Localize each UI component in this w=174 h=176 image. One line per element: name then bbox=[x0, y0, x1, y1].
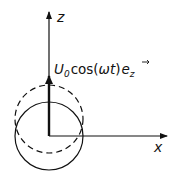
vector-arrow-icon bbox=[142, 60, 149, 64]
close-paren: ) bbox=[115, 61, 120, 77]
velocity-label: U0cos(ωt)ez bbox=[54, 61, 135, 79]
velocity-amplitude-subscript: 0 bbox=[64, 69, 70, 79]
unit-vector-subscript: z bbox=[129, 69, 135, 79]
omega-t: ωt bbox=[99, 61, 116, 77]
x-axis-label: x bbox=[153, 139, 163, 155]
cos-function: cos( bbox=[71, 61, 99, 77]
unit-vector-e: e bbox=[122, 61, 130, 77]
velocity-amplitude: U bbox=[54, 61, 64, 77]
z-axis-label: z bbox=[56, 9, 65, 25]
oscillating-sphere-diagram: z x U0cos(ωt)ez bbox=[0, 0, 174, 176]
